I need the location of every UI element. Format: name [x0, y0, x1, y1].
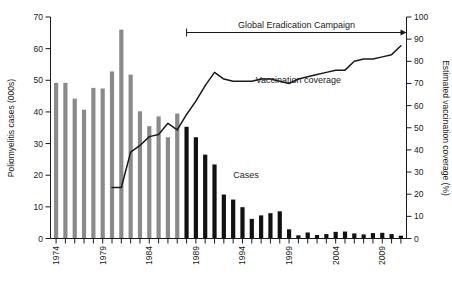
- right-tick-label-0: 0: [414, 234, 419, 244]
- bar-1983: [138, 111, 142, 238]
- campaign-label: Global Eradication Campaign: [238, 20, 355, 30]
- bar-1995: [250, 219, 254, 239]
- bar-2006: [352, 233, 356, 238]
- right-tick-label-90: 90: [414, 34, 424, 44]
- chart-figure: 010203040506070 Poliomyelitis cases (000…: [0, 0, 452, 285]
- bar-1994: [240, 207, 244, 238]
- bar-1999: [287, 229, 291, 238]
- left-tick-label-20: 20: [34, 170, 44, 180]
- left-tick-label-50: 50: [34, 75, 44, 85]
- bar-1990: [203, 155, 207, 239]
- bar-2001: [306, 232, 310, 238]
- campaign-annotation: Global Eradication Campaign: [187, 20, 407, 37]
- campaign-arrow-head: [401, 30, 407, 36]
- bar-1996: [259, 215, 263, 238]
- vaccination-coverage-line: [112, 46, 401, 188]
- polio-cases-vaccination-coverage-chart: 010203040506070 Poliomyelitis cases (000…: [0, 0, 452, 285]
- right-axis: 0102030405060708090100 Estimated vaccina…: [407, 12, 452, 244]
- x-tick-label-2004: 2004: [331, 246, 341, 265]
- left-axis: 010203040506070 Poliomyelitis cases (000…: [6, 12, 51, 244]
- bar-1981: [119, 30, 123, 239]
- left-axis-title: Poliomyelitis cases (000s): [6, 79, 16, 177]
- right-tick-label-20: 20: [414, 189, 424, 199]
- x-tick-label-1979: 1979: [98, 246, 108, 265]
- cases-label: Cases: [233, 170, 259, 180]
- bar-2004: [334, 232, 338, 239]
- right-tick-label-10: 10: [414, 211, 424, 221]
- bar-1986: [166, 137, 170, 238]
- bar-1978: [91, 88, 95, 239]
- bars-group: [54, 30, 403, 239]
- bar-1991: [212, 164, 216, 238]
- bar-2002: [315, 235, 319, 238]
- bar-1974: [54, 83, 58, 239]
- bar-1997: [268, 213, 272, 238]
- bar-1989: [194, 137, 198, 238]
- left-tick-label-0: 0: [38, 234, 43, 244]
- right-tick-label-40: 40: [414, 145, 424, 155]
- right-tick-label-50: 50: [414, 123, 424, 133]
- right-axis-title: Estimated vaccination coverage (%): [441, 60, 451, 196]
- x-tick-label-1994: 1994: [237, 246, 247, 265]
- right-tick-label-60: 60: [414, 101, 424, 111]
- right-tick-label-30: 30: [414, 167, 424, 177]
- right-tick-label-70: 70: [414, 78, 424, 88]
- x-tick-label-1984: 1984: [144, 246, 154, 265]
- bar-1975: [63, 83, 67, 239]
- bar-1984: [147, 126, 151, 238]
- bar-1993: [231, 200, 235, 239]
- bar-2009: [380, 233, 384, 239]
- left-tick-label-40: 40: [34, 107, 44, 117]
- x-tick-label-1974: 1974: [51, 246, 61, 265]
- bar-2007: [362, 234, 366, 238]
- left-tick-label-70: 70: [34, 12, 44, 22]
- bar-2010: [389, 234, 393, 238]
- right-tick-label-100: 100: [414, 12, 428, 22]
- bar-1992: [222, 195, 226, 239]
- x-tick-label-1999: 1999: [284, 246, 294, 265]
- bar-2003: [324, 234, 328, 238]
- bar-2005: [343, 232, 347, 239]
- bar-1980: [110, 71, 114, 238]
- bar-2008: [371, 233, 375, 238]
- x-tick-label-2009: 2009: [377, 246, 387, 265]
- bar-1998: [278, 211, 282, 238]
- coverage-line-group: [112, 46, 401, 188]
- left-tick-label-30: 30: [34, 139, 44, 149]
- right-tick-label-80: 80: [414, 56, 424, 66]
- coverage-label: Vaccination coverage: [256, 75, 341, 85]
- bar-1988: [184, 127, 188, 239]
- x-tick-label-1989: 1989: [191, 246, 201, 265]
- left-tick-label-10: 10: [34, 202, 44, 212]
- bar-1987: [175, 114, 179, 239]
- left-tick-label-60: 60: [34, 44, 44, 54]
- bar-1976: [73, 99, 77, 239]
- bar-1977: [82, 110, 86, 239]
- x-axis: 19741979198419891994199920042009: [51, 239, 407, 265]
- bar-1979: [101, 89, 105, 239]
